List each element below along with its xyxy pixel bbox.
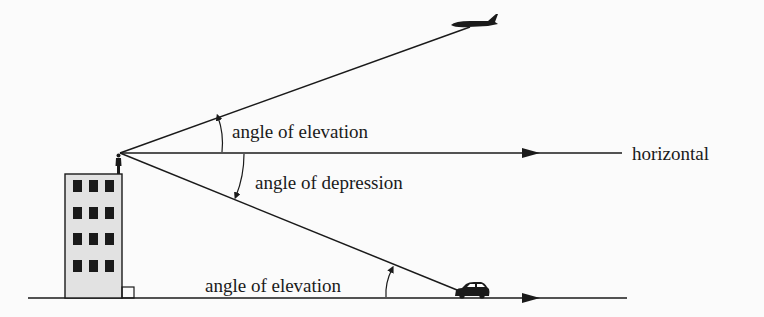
lower-elevation-arc bbox=[386, 269, 392, 297]
label-lower-angle-of-elevation: angle of elevation bbox=[205, 276, 341, 295]
building bbox=[65, 174, 134, 298]
upper-elevation-arc bbox=[218, 117, 223, 152]
car-icon bbox=[455, 282, 490, 299]
ground-arrowhead-icon bbox=[522, 293, 540, 303]
angle-of-elevation-depression-diagram: angle of elevation angle of depression a… bbox=[0, 0, 764, 317]
person-icon bbox=[116, 154, 122, 175]
right-angle-marker bbox=[122, 287, 134, 298]
label-angle-of-depression: angle of depression bbox=[255, 173, 403, 192]
airplane-icon bbox=[451, 14, 498, 27]
horizontal-arrowhead-icon bbox=[522, 148, 540, 158]
depression-arc bbox=[236, 154, 244, 196]
horizontal-line bbox=[120, 148, 622, 158]
label-upper-angle-of-elevation: angle of elevation bbox=[232, 122, 368, 141]
label-horizontal: horizontal bbox=[632, 144, 709, 163]
